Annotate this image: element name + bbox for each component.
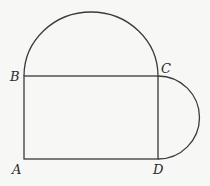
diagram-canvas: B C A D (0, 0, 210, 186)
semicircle-bc (24, 12, 158, 76)
label-b: B (9, 69, 20, 84)
label-a: A (11, 162, 21, 177)
rectangle-abcd (24, 76, 158, 159)
label-c: C (161, 61, 171, 76)
label-d: D (152, 162, 164, 177)
geometry-figure: B C A D (0, 0, 210, 186)
semicircle-cd (158, 76, 199, 159)
